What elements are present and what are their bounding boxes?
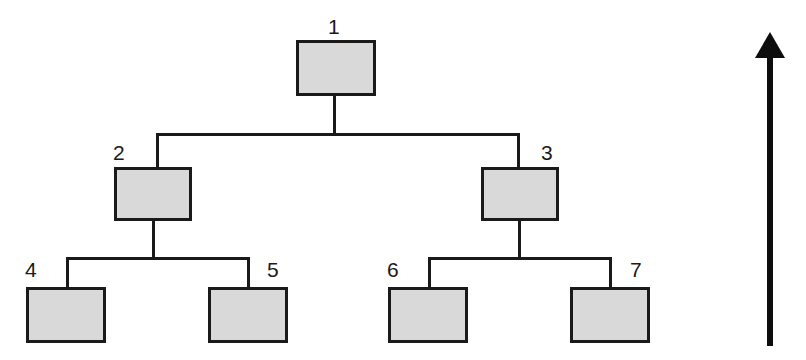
root-drop-stub (333, 96, 336, 134)
tree-node-label-1: 1 (328, 16, 340, 37)
tree-node-label-4: 4 (25, 259, 37, 280)
level1-horizontal-bus (156, 133, 520, 136)
level1-right-drop (517, 133, 520, 169)
tree-node-3[interactable] (481, 167, 559, 221)
level2-leaf5-drop (247, 257, 250, 289)
tree-node-label-5: 5 (267, 259, 279, 280)
node2-drop-stub (152, 221, 155, 258)
tree-node-2[interactable] (114, 167, 192, 221)
tree-node-7[interactable] (570, 287, 650, 343)
tree-node-5[interactable] (208, 287, 288, 343)
tree-node-label-3: 3 (541, 142, 553, 163)
level2-leaf6-drop (428, 257, 431, 289)
level2-right-bus (428, 257, 612, 260)
level2-leaf4-drop (66, 257, 69, 289)
tree-node-1[interactable] (296, 40, 376, 96)
tree-node-label-7: 7 (630, 259, 642, 280)
tree-node-label-2: 2 (113, 142, 125, 163)
tree-node-label-6: 6 (387, 259, 399, 280)
tree-node-4[interactable] (26, 287, 106, 343)
node3-drop-stub (518, 221, 521, 258)
level2-leaf7-drop (609, 257, 612, 289)
level2-left-bus (66, 257, 250, 260)
arrow-shaft (767, 56, 773, 346)
diagram-canvas: 1234567 (0, 0, 806, 360)
tree-node-6[interactable] (388, 287, 468, 343)
level1-left-drop (156, 133, 159, 169)
arrow-head-icon (755, 32, 785, 58)
